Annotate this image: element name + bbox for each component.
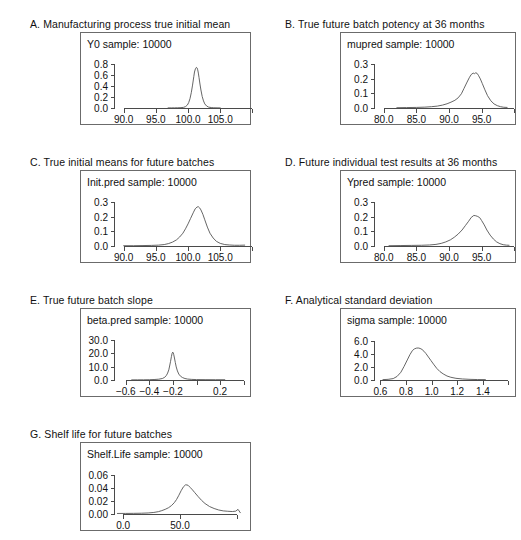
x-tick-label: 0.8 <box>399 386 413 397</box>
sample-label-c: Init.pred sample: 10000 <box>87 176 197 188</box>
density-curve-d <box>389 215 509 245</box>
x-tick-label: 50.0 <box>170 520 190 531</box>
x-tick-label: 85.0 <box>407 114 427 125</box>
y-tick-label: 0.3 <box>94 197 108 208</box>
y-tick-label: 2.0 <box>354 362 368 373</box>
panel-title-c: C. True initial means for future batches <box>30 156 214 168</box>
y-tick-label: 0.0 <box>94 241 108 252</box>
y-tick-label: 6.0 <box>354 336 368 347</box>
y-tick-label: 4.0 <box>354 349 368 360</box>
x-tick-label: 1.2 <box>450 386 464 397</box>
density-curve-f <box>383 348 485 380</box>
y-tick-label: 0.4 <box>94 81 108 92</box>
y-tick-label: 0.3 <box>354 59 368 70</box>
density-curve-a <box>168 67 220 108</box>
y-tick-label: 0.1 <box>354 88 368 99</box>
plot-panel-f: sigma sample: 100000.02.04.06.00.60.81.0… <box>340 308 516 397</box>
y-tick-label: 0.2 <box>354 74 368 85</box>
x-tick-label: 95.0 <box>146 252 166 263</box>
panel-title-e: E. True future batch slope <box>30 294 153 306</box>
x-tick-label: 95.0 <box>472 252 492 263</box>
y-tick-label: 0.0 <box>354 375 368 386</box>
panel-title-b: B. True future batch potency at 36 month… <box>285 18 485 30</box>
y-tick-label: 0.0 <box>354 103 368 114</box>
plot-panel-c: Init.pred sample: 100000.00.10.20.390.09… <box>80 170 251 263</box>
x-tick-label: 85.0 <box>407 252 427 263</box>
y-tick-label: 0.02 <box>89 496 109 507</box>
x-tick-label: 0.2 <box>213 386 227 397</box>
y-tick-label: 0.8 <box>94 59 108 70</box>
sample-label-d: Ypred sample: 10000 <box>347 176 446 188</box>
y-tick-label: 0.1 <box>354 226 368 237</box>
sample-label-g: Shelf.Life sample: 10000 <box>87 448 203 460</box>
x-tick-label: −0.2 <box>163 386 183 397</box>
y-tick-label: 0.3 <box>354 197 368 208</box>
sample-label-e: beta.pred sample: 10000 <box>87 314 203 326</box>
figure-root: { "figure": { "background": "#ffffff", "… <box>0 0 521 540</box>
density-curve-e <box>132 352 225 380</box>
panel-title-g: G. Shelf life for future batches <box>30 428 172 440</box>
plot-panel-a: Y0 sample: 100000.00.20.40.60.890.095.01… <box>80 32 251 125</box>
y-tick-label: 0.04 <box>89 483 109 494</box>
panel-title-f: F. Analytical standard deviation <box>285 294 432 306</box>
y-tick-label: 20.0 <box>89 348 109 359</box>
panel-title-d: D. Future individual test results at 36 … <box>285 156 497 168</box>
x-tick-label: 95.0 <box>472 114 492 125</box>
x-tick-label: −0.4 <box>139 386 159 397</box>
y-tick-label: 0.1 <box>94 226 108 237</box>
y-tick-label: 0.2 <box>94 212 108 223</box>
y-tick-label: 0.2 <box>94 92 108 103</box>
y-tick-label: 0.00 <box>89 509 109 520</box>
x-tick-label: 90.0 <box>114 114 134 125</box>
plot-panel-b: mupred sample: 100000.00.10.20.380.085.0… <box>340 32 516 125</box>
plot-panel-g: Shelf.Life sample: 100000.000.020.040.06… <box>80 442 251 531</box>
x-tick-label: 90.0 <box>439 114 459 125</box>
y-tick-label: 0.0 <box>94 103 108 114</box>
sample-label-b: mupred sample: 10000 <box>347 38 455 50</box>
x-tick-label: 90.0 <box>114 252 134 263</box>
plot-panel-d: Ypred sample: 100000.00.10.20.380.085.09… <box>340 170 516 263</box>
x-tick-label: 1.0 <box>425 386 439 397</box>
x-tick-label: 1.4 <box>476 386 490 397</box>
y-tick-label: 0.6 <box>94 70 108 81</box>
x-tick-label: 105.0 <box>208 252 233 263</box>
x-tick-label: 105.0 <box>208 114 233 125</box>
y-tick-label: 0.2 <box>354 212 368 223</box>
x-tick-label: 95.0 <box>146 114 166 125</box>
x-tick-label: 100.0 <box>176 114 201 125</box>
x-tick-label: −0.6 <box>116 386 136 397</box>
x-tick-label: 100.0 <box>176 252 201 263</box>
x-tick-label: 90.0 <box>439 252 459 263</box>
sample-label-a: Y0 sample: 10000 <box>87 38 172 50</box>
sample-label-f: sigma sample: 10000 <box>347 314 447 326</box>
plot-panel-e: beta.pred sample: 100000.010.020.030.0−0… <box>80 308 251 397</box>
panel-title-a: A. Manufacturing process true initial me… <box>30 18 230 30</box>
density-curve-b <box>397 73 507 108</box>
y-tick-label: 0.0 <box>94 375 108 386</box>
y-tick-label: 0.06 <box>89 470 109 481</box>
x-tick-label: 0.0 <box>116 520 130 531</box>
density-curve-g <box>117 485 240 514</box>
x-tick-label: 0.6 <box>373 386 387 397</box>
x-tick-label: 80.0 <box>374 252 394 263</box>
x-tick-label: 80.0 <box>374 114 394 125</box>
y-tick-label: 10.0 <box>89 362 109 373</box>
y-tick-label: 30.0 <box>89 335 109 346</box>
density-curve-c <box>124 207 245 246</box>
y-tick-label: 0.0 <box>354 241 368 252</box>
